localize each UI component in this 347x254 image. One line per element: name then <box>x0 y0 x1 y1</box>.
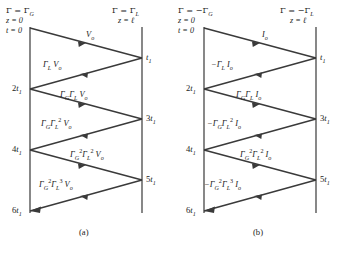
ray-label-a-2: ΓGΓL Vo <box>60 91 88 99</box>
ray-label-a-5: ΓG2ΓL3 Vo <box>39 181 73 189</box>
ray-a-5-endarrow <box>30 207 41 214</box>
figure-root: Γ = ΓG z = 0 t = 0 Γ = ΓL z = ℓ 22tt1 4t… <box>0 0 347 254</box>
bounce-diagram-panel-a: Γ = ΓG z = 0 t = 0 Γ = ΓL z = ℓ 22tt1 4t… <box>0 0 173 254</box>
right-time-5t1-a: 5t1 <box>146 175 156 184</box>
ray-label-a-0: Vo <box>86 31 94 39</box>
bounce-diagram-panel-b: Γ = −ΓG z = 0 t = 0 Γ = −ΓL z = ℓ 2t1 4t… <box>174 0 347 254</box>
left-gamma-label-a: Γ = ΓG <box>6 6 34 15</box>
left-t-label-b: t = 0 <box>178 27 194 35</box>
left-time-4t1-b: 4t1 <box>186 145 196 154</box>
panel-b-graphics <box>174 0 347 254</box>
left-gamma-label-b: Γ = −ΓG <box>178 6 213 15</box>
ray-label-b-3: −ΓGΓL2 Io <box>207 120 241 128</box>
right-z-label-b: z = ℓ <box>290 17 306 25</box>
ray-label-a-3: ΓGΓL2 Vo <box>41 120 72 128</box>
ray-label-b-0: Io <box>262 31 268 39</box>
ray-label-b-1: −ΓL Io <box>211 61 233 69</box>
panel-caption-a: (a) <box>79 228 89 237</box>
left-time-6t1-a: 6t1 <box>12 206 22 215</box>
right-gamma-label-a: Γ = ΓL <box>112 6 139 15</box>
left-time-6t1-b: 6t1 <box>186 206 196 215</box>
right-time-3t1-a: 3t1 <box>146 114 156 123</box>
right-gamma-label-b: Γ = −ΓL <box>280 6 314 15</box>
right-time-5t1-b: 5t1 <box>320 175 330 184</box>
left-time-4t1-a: 4t1 <box>12 145 22 154</box>
ray-label-a-4: ΓG2ΓL2 Vo <box>70 151 104 159</box>
left-z-label-a: z = 0 <box>6 17 23 25</box>
left-time-2t1-b: 2t1 <box>186 84 196 93</box>
ray-label-b-4: ΓG2ΓL2 Io <box>240 151 271 159</box>
left-z-label-b: z = 0 <box>178 17 195 25</box>
right-time-3t1-b: 3t1 <box>320 114 330 123</box>
right-time-t1-a: t1 <box>146 53 151 62</box>
ray-label-b-5: −ΓG2ΓL3 Io <box>204 181 241 189</box>
ray-label-b-2: ΓGΓL Io <box>236 91 261 99</box>
left-t-label-a: t = 0 <box>6 27 22 35</box>
left-time-2t1-a: 22tt1 <box>12 84 22 93</box>
right-time-t1-b: t1 <box>320 53 325 62</box>
panel-caption-b: (b) <box>253 228 263 237</box>
right-z-label-a: z = ℓ <box>118 17 134 25</box>
ray-b-5-endarrow <box>204 207 215 214</box>
ray-label-a-1: ΓL Vo <box>43 61 61 69</box>
